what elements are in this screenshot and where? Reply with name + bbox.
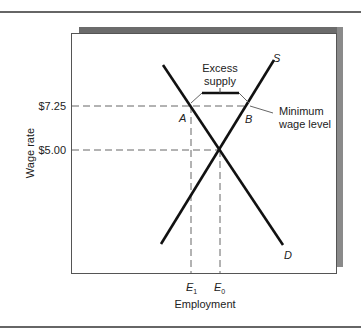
y-tick-equilibrium-wage: $5.00	[38, 144, 66, 156]
y-tick-min-wage: $7.25	[38, 100, 66, 112]
y-axis-label: Wage rate	[24, 128, 36, 178]
minimum-wage-diagram: Excess supply Minimum wage level S D A B…	[0, 0, 361, 330]
excess-label-line1: Excess	[202, 62, 238, 74]
frame-shadow-top	[79, 27, 343, 33]
frame-shadow-right	[337, 27, 343, 267]
demand-curve-label: D	[284, 249, 292, 261]
min-wage-label-line2: wage level	[278, 118, 331, 130]
x-axis-label: Employment	[174, 298, 235, 310]
excess-label-line2: supply	[204, 75, 236, 87]
point-a-label: A	[178, 112, 186, 124]
x-tick-e0: E0	[214, 281, 225, 295]
x-tick-e1: E1	[186, 281, 197, 295]
min-wage-label-line1: Minimum	[279, 105, 324, 117]
supply-curve-label: S	[273, 52, 281, 64]
point-b-label: B	[245, 113, 252, 125]
